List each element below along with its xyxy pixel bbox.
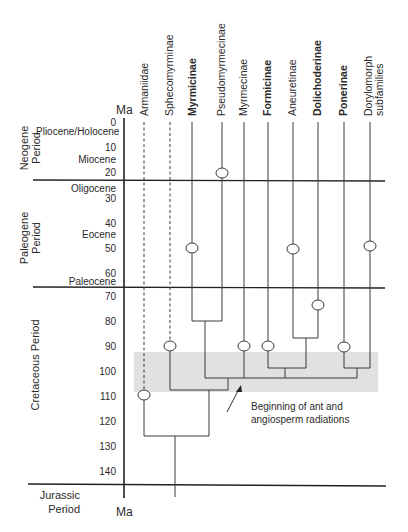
epoch-eocene: Eocene (36, 230, 116, 240)
taxon-aneuretinae: Aneuretinae (287, 59, 298, 116)
annotation-text: Beginning of ant and angiosperm radiatio… (251, 400, 349, 426)
tick-70: 70 (76, 292, 116, 302)
tick-40: 40 (76, 219, 116, 229)
fossil-marker-sphecomyrminae (164, 341, 176, 351)
tick-80: 80 (76, 317, 116, 327)
period-neogene: Neogene Period (18, 118, 42, 178)
epoch-miocene: Miocene (36, 155, 116, 165)
epoch-oligocene: Oligocene (36, 184, 116, 194)
taxon-myrmecinae: Myrmecinae (238, 59, 249, 116)
axis-unit-bottom: Ma (116, 506, 133, 518)
fossil-marker-myrmicinae (186, 243, 198, 253)
epoch-paleocene: Paleocene (36, 277, 116, 287)
tick-120: 120 (76, 417, 116, 427)
tick-130: 130 (76, 442, 116, 452)
taxon-formicinae: Formicinae (262, 60, 273, 116)
fossil-marker-pseudomyrmecinae (216, 168, 228, 178)
taxon-dolichoderinae: Dolichoderinae (312, 40, 323, 116)
fossil-marker-aneuretinae (287, 244, 299, 254)
taxon-armaniidae: Armaniidae (139, 63, 150, 116)
tick-10: 10 (76, 143, 116, 153)
taxon-pseudomyrmecinae: Pseudomyrmecinae (216, 23, 227, 116)
taxon-dorylomorph: Dorylomorph subfamilies (363, 56, 385, 116)
epoch-pliocene-holocene: Pliocene/Holocene (36, 127, 116, 137)
cretaceous-jurassic-boundary (28, 484, 386, 486)
neogene-paleogene-boundary (33, 180, 385, 181)
tick-50: 50 (76, 244, 116, 254)
fossil-marker-armaniidae (138, 390, 150, 400)
fossil-marker-formicinae (262, 341, 274, 351)
tick-30: 30 (76, 194, 116, 204)
tick-90: 90 (76, 342, 116, 352)
taxon-ponerinae: Ponerinae (338, 65, 349, 116)
fossil-marker-myrmecinae (238, 341, 250, 351)
taxon-sphecomyrminae: Sphecomyrminae (164, 34, 175, 116)
tick-20: 20 (76, 168, 116, 178)
fossil-marker-ponerinae (338, 342, 350, 352)
fossil-marker-dolichoderinae (312, 300, 324, 310)
tick-110: 110 (76, 392, 116, 402)
taxon-myrmicinae: Myrmicinae (187, 58, 198, 116)
paleogene-cretaceous-boundary (33, 287, 385, 288)
ant-phylogeny-diagram: Ma Ma 0 10 20 30 40 50 60 70 80 90 100 1… (0, 0, 408, 532)
radiation-band (134, 352, 378, 392)
tick-100: 100 (76, 367, 116, 377)
axis-unit-top: Ma (116, 104, 133, 116)
annotation-arrow (227, 389, 239, 412)
period-jurassic: Jurassic Period (38, 489, 80, 517)
period-cretaceous: Cretaceous Period (29, 295, 41, 435)
tick-140: 140 (76, 467, 116, 477)
fossil-marker-dorylomorph (364, 241, 376, 251)
period-paleogene: Paleogene Period (18, 198, 42, 278)
